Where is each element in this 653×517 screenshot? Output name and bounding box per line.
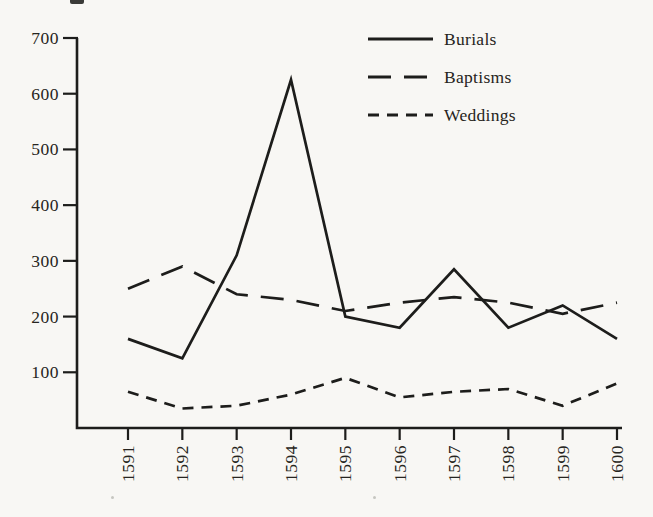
legend-label-baptisms: Baptisms (444, 65, 512, 89)
parish-records-line-chart: 1002003004005006007001591159215931594159… (0, 0, 653, 517)
series-line-weddings (128, 378, 617, 409)
y-axis-tick-label: 700 (31, 28, 59, 48)
series-line-baptisms (128, 266, 617, 313)
x-axis-tick-label: 1598 (498, 445, 518, 482)
x-axis-tick-label: 1593 (227, 445, 247, 482)
legend-item-baptisms: Baptisms (367, 65, 516, 89)
x-axis-tick-label: 1600 (607, 445, 627, 482)
axis-spine (77, 38, 622, 428)
y-axis-tick-label: 600 (31, 84, 59, 104)
x-axis-tick-label: 1592 (172, 445, 192, 482)
legend-line-long-dash-icon (367, 73, 435, 81)
x-axis-tick-label: 1599 (553, 445, 573, 482)
x-axis-tick-label: 1591 (118, 445, 138, 482)
legend-item-weddings: Weddings (367, 103, 516, 127)
legend-line-solid-icon (367, 35, 435, 43)
chart-plot-canvas: 1002003004005006007001591159215931594159… (0, 0, 653, 517)
y-axis-tick-label: 200 (31, 307, 59, 327)
x-axis-tick-label: 1596 (390, 445, 410, 482)
legend-line-short-dash-icon (367, 111, 435, 119)
x-axis-tick-label: 1595 (335, 445, 355, 482)
chart-legend: Burials Baptisms Weddings (367, 27, 516, 141)
legend-label-weddings: Weddings (444, 103, 516, 127)
legend-item-burials: Burials (367, 27, 516, 51)
y-axis-tick-label: 500 (31, 139, 59, 159)
y-axis-tick-label: 100 (31, 362, 59, 382)
x-axis-tick-label: 1594 (281, 445, 301, 482)
legend-label-burials: Burials (444, 27, 497, 51)
y-axis-tick-label: 300 (31, 251, 59, 271)
x-axis-tick-label: 1597 (444, 445, 464, 482)
y-axis-tick-label: 400 (31, 195, 59, 215)
